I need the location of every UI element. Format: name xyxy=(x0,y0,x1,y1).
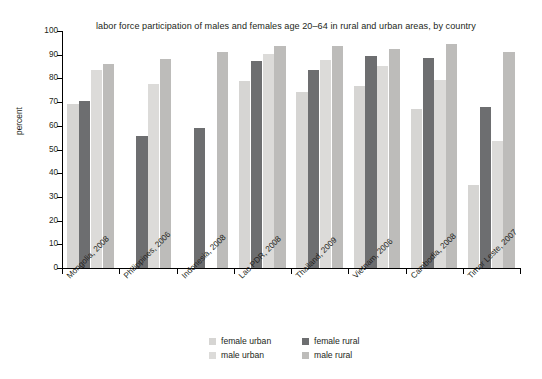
legend-swatch-icon xyxy=(302,338,309,345)
y-tick-label: 80 xyxy=(32,72,58,83)
bar[interactable] xyxy=(411,109,422,268)
x-tick-mark xyxy=(406,269,407,274)
y-tick-label: 100 xyxy=(32,25,58,36)
legend-label: female urban xyxy=(221,336,271,347)
x-tick-mark xyxy=(291,269,292,274)
y-tick-label: 90 xyxy=(32,49,58,60)
legend-item[interactable]: female urban xyxy=(209,336,302,347)
bar[interactable] xyxy=(365,56,376,268)
x-tick-mark xyxy=(520,269,521,274)
x-tick-mark xyxy=(463,269,464,274)
bar[interactable] xyxy=(296,92,307,268)
chart-legend: female urbanfemale ruralmale urbanmale r… xyxy=(209,334,424,362)
bar[interactable] xyxy=(354,86,365,268)
x-tick-mark xyxy=(119,269,120,274)
y-tick-label: 20 xyxy=(32,215,58,226)
bar[interactable] xyxy=(423,58,434,268)
bar-group xyxy=(291,31,348,268)
legend-swatch-icon xyxy=(209,352,216,359)
bar-group xyxy=(348,31,405,268)
x-tick-mark xyxy=(177,269,178,274)
bar-group xyxy=(177,31,234,268)
bar-chart-figure: labor force participation of males and f… xyxy=(0,0,542,379)
legend-item[interactable]: male rural xyxy=(302,350,352,361)
legend-swatch-icon xyxy=(209,338,216,345)
y-tick-label: 40 xyxy=(32,167,58,178)
legend-row: female urbanfemale rural xyxy=(209,334,424,348)
bar[interactable] xyxy=(389,49,400,268)
bar-group xyxy=(234,31,291,268)
bar[interactable] xyxy=(239,81,250,268)
legend-label: male urban xyxy=(221,350,264,361)
bar[interactable] xyxy=(79,101,90,268)
x-tick-mark xyxy=(234,269,235,274)
legend-label: female rural xyxy=(314,336,359,347)
y-tick-label: 70 xyxy=(32,96,58,107)
y-tick-label: 60 xyxy=(32,120,58,131)
bar-group xyxy=(406,31,463,268)
legend-label: male rural xyxy=(314,350,352,361)
legend-row: male urbanmale rural xyxy=(209,348,424,362)
bar-group xyxy=(62,31,119,268)
bar[interactable] xyxy=(263,54,274,268)
bar[interactable] xyxy=(251,61,262,268)
y-tick-label: 0 xyxy=(32,262,58,273)
bar[interactable] xyxy=(468,185,479,268)
x-tick-mark xyxy=(348,269,349,274)
bar[interactable] xyxy=(194,128,205,268)
bar[interactable] xyxy=(332,46,343,268)
y-tick-label: 10 xyxy=(32,238,58,249)
bar[interactable] xyxy=(480,107,491,268)
y-tick-label: 50 xyxy=(32,144,58,155)
legend-swatch-icon xyxy=(302,352,309,359)
legend-item[interactable]: female rural xyxy=(302,336,359,347)
legend-item[interactable]: male urban xyxy=(209,350,302,361)
x-tick-mark xyxy=(62,269,63,274)
y-axis-title: percent xyxy=(14,107,24,135)
bar[interactable] xyxy=(67,104,78,268)
y-tick-label: 30 xyxy=(32,191,58,202)
bar[interactable] xyxy=(308,70,319,268)
